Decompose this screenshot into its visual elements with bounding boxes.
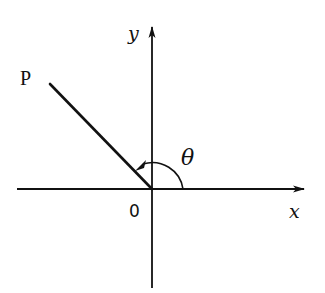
angle-diagram: y x 0 P θ <box>0 0 325 293</box>
angle-arc-arrowhead-icon <box>135 160 146 171</box>
point-p-label: P <box>20 67 31 89</box>
y-axis-label: y <box>127 22 139 44</box>
theta-label: θ <box>181 145 194 170</box>
ray-op <box>50 84 152 189</box>
origin-label: 0 <box>129 201 140 221</box>
x-axis-label: x <box>289 200 300 222</box>
